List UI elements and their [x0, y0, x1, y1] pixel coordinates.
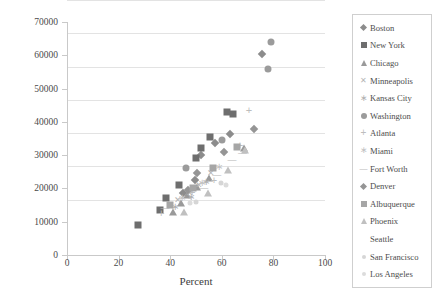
legend-item-fort-worth[interactable]: —Fort Worth	[357, 160, 428, 178]
legend-marker-icon: +	[357, 127, 370, 139]
data-point	[258, 49, 266, 57]
legend-marker-icon	[357, 215, 370, 227]
data-point	[230, 110, 237, 117]
legend-key-glyph	[361, 113, 367, 119]
data-point	[241, 147, 249, 154]
y-tick-label: 50000	[14, 84, 58, 94]
data-point	[204, 190, 212, 197]
data-point	[223, 183, 228, 188]
legend-item-denver[interactable]: Denver	[357, 177, 428, 195]
data-point	[194, 199, 199, 204]
data-point	[134, 222, 141, 229]
data-point	[267, 38, 274, 45]
legend-key-glyph: +	[361, 128, 367, 138]
data-point	[218, 137, 225, 144]
legend-marker-icon	[357, 233, 370, 245]
legend-marker-icon	[357, 22, 370, 34]
legend-key-glyph: ✕	[360, 77, 367, 85]
legend-label: Chicago	[370, 58, 399, 68]
legend-label: Seattle	[370, 234, 393, 244]
gridline	[67, 0, 325, 1]
plot-area: ✕✕✕✕∗∗∗+++++∗∗∗—————	[67, 22, 325, 255]
legend-item-los-angeles[interactable]: Los Angeles	[357, 265, 428, 283]
legend-key-glyph	[361, 60, 367, 66]
legend-label: Washington	[370, 111, 411, 121]
legend-item-washington[interactable]: Washington	[357, 107, 428, 125]
legend-label: Los Angeles	[370, 269, 413, 279]
legend-label: Phoenix	[370, 216, 398, 226]
legend-item-phoenix[interactable]: Phoenix	[357, 213, 428, 231]
y-tick-label: 0	[14, 250, 58, 260]
legend-item-boston[interactable]: Boston	[357, 19, 428, 37]
legend-marker-icon: ∗	[357, 92, 370, 104]
legend-key-glyph: ∗	[360, 94, 368, 103]
legend-key-glyph	[362, 272, 366, 276]
legend-label: Miami	[370, 146, 393, 156]
data-point	[180, 208, 188, 215]
data-point	[225, 129, 233, 137]
legend-key-glyph: ∗	[360, 146, 368, 155]
legend-label: Albuquerque	[370, 199, 415, 209]
legend-label: Boston	[370, 23, 394, 33]
y-tick-label: 40000	[14, 117, 58, 127]
legend-label: New York	[370, 40, 405, 50]
legend-item-albuquerque[interactable]: Albuquerque	[357, 195, 428, 213]
legend-label: Fort Worth	[370, 164, 408, 174]
legend-label: Minneapolis	[370, 76, 413, 86]
x-tick-label: 80	[269, 258, 279, 268]
legend-item-kansas-city[interactable]: ∗Kansas City	[357, 89, 428, 107]
legend-key-glyph	[360, 183, 367, 190]
data-point	[234, 143, 241, 150]
legend-marker-icon	[357, 198, 370, 210]
legend-marker-icon	[357, 251, 370, 263]
legend-item-new-york[interactable]: New York	[357, 37, 428, 55]
legend-key-glyph	[361, 218, 367, 224]
legend-item-chicago[interactable]: Chicago	[357, 54, 428, 72]
data-point	[265, 65, 272, 72]
y-tick-label: 10000	[14, 217, 58, 227]
data-point: +	[246, 105, 252, 116]
legend-marker-icon: ✕	[357, 75, 370, 87]
data-point: ∗	[178, 193, 186, 203]
x-tick-label: 20	[114, 258, 124, 268]
legend-marker-icon	[357, 110, 370, 122]
legend-marker-icon: —	[357, 163, 370, 175]
data-point	[176, 182, 183, 189]
legend-item-minneapolis[interactable]: ✕Minneapolis	[357, 72, 428, 90]
legend-key-glyph	[361, 201, 367, 207]
y-tick-label: 20000	[14, 183, 58, 193]
x-tick-label: 60	[217, 258, 227, 268]
legend-label: Denver	[370, 181, 395, 191]
legend-key-glyph	[362, 255, 366, 259]
x-tick-label: 100	[318, 258, 332, 268]
legend-key-glyph: —	[360, 165, 368, 173]
y-tick-label: 30000	[14, 150, 58, 160]
data-point: —	[212, 171, 221, 180]
data-point: —	[228, 156, 237, 165]
legend-item-seattle[interactable]: Seattle	[357, 230, 428, 248]
x-axis-line	[67, 255, 326, 256]
legend-marker-icon	[357, 57, 370, 69]
legend-label: Kansas City	[370, 93, 412, 103]
data-point	[207, 133, 214, 140]
data-point	[209, 165, 216, 172]
legend-item-atlanta[interactable]: +Atlanta	[357, 125, 428, 143]
legend-item-san-francisco[interactable]: San Francisco	[357, 248, 428, 266]
x-tick-label: 40	[165, 258, 175, 268]
legend-item-miami[interactable]: ∗Miami	[357, 142, 428, 160]
data-point	[224, 167, 232, 174]
data-point	[250, 124, 258, 132]
legend-marker-icon: ∗	[357, 145, 370, 157]
legend-label: San Francisco	[370, 252, 418, 262]
legend-marker-icon	[357, 268, 370, 280]
chart-legend: BostonNew YorkChicago✕Minneapolis∗Kansas…	[352, 14, 432, 288]
y-tick-label: 60000	[14, 50, 58, 60]
data-point	[182, 165, 189, 172]
legend-label: Atlanta	[370, 128, 395, 138]
data-point	[167, 202, 174, 209]
legend-key-glyph	[361, 42, 367, 48]
y-tick-label: 70000	[14, 17, 58, 27]
data-point	[187, 201, 192, 206]
data-point	[190, 185, 197, 192]
legend-marker-icon	[357, 39, 370, 51]
